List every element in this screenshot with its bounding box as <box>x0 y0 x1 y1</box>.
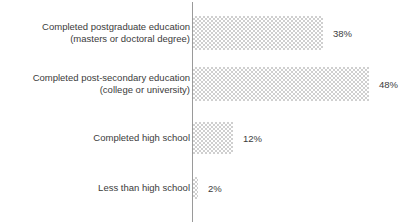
bar-segment[interactable] <box>193 177 198 199</box>
category-label: Completed high school <box>10 132 190 144</box>
bar-group: 2% <box>193 177 222 199</box>
bar-value-label: 2% <box>208 183 222 194</box>
category-label: Less than high school <box>10 182 190 194</box>
bar-segment[interactable] <box>193 67 369 101</box>
bar-row: Completed postgraduate education (master… <box>0 16 402 50</box>
bar-value-label: 12% <box>243 133 262 144</box>
category-label: Completed postgraduate education (master… <box>10 21 190 45</box>
bar-row: Less than high school 2% <box>0 177 402 199</box>
bar-row: Completed high school 12% <box>0 122 402 154</box>
bar-value-label: 38% <box>333 28 352 39</box>
horizontal-bar-chart: Completed postgraduate education (master… <box>0 0 402 224</box>
bar-row: Completed post-secondary education (coll… <box>0 67 402 101</box>
bar-segment[interactable] <box>193 16 323 50</box>
bar-value-label: 48% <box>379 79 398 90</box>
bar-group: 48% <box>193 67 398 101</box>
bar-group: 12% <box>193 122 262 154</box>
bar-group: 38% <box>193 16 352 50</box>
bar-segment[interactable] <box>193 122 233 154</box>
category-label: Completed post-secondary education (coll… <box>10 72 190 96</box>
